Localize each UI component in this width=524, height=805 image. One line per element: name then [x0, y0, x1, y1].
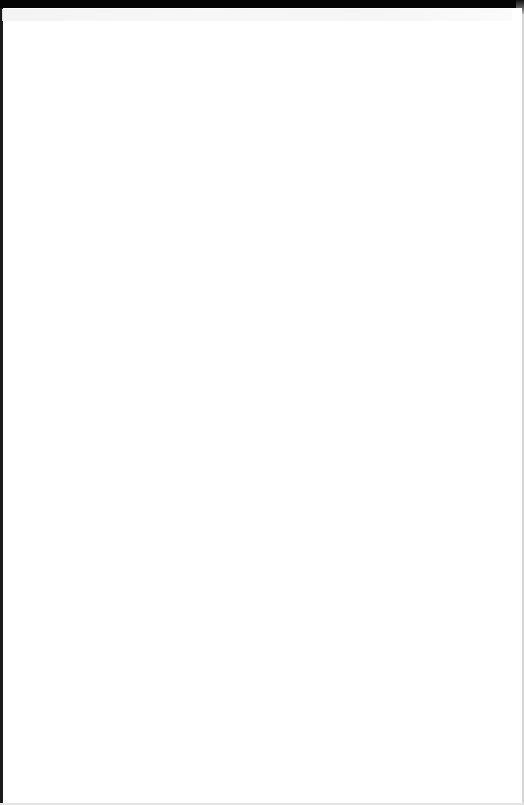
faded-toolbar-strip: [2, 9, 512, 21]
title-bar[interactable]: [0, 0, 524, 8]
app-window: [0, 0, 524, 805]
blank-content-area: [3, 8, 522, 805]
